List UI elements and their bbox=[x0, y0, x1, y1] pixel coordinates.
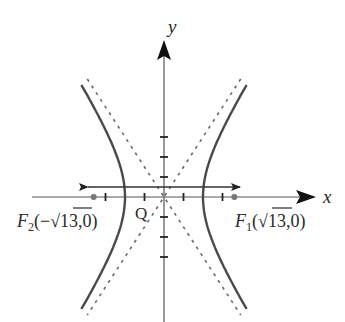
focus-f1-point bbox=[231, 194, 237, 200]
x-axis-label: x bbox=[322, 186, 332, 207]
focus-f2-point bbox=[91, 194, 97, 200]
hyperbola-diagram: x y Q F2(−√13,0) F1(√13,0) bbox=[0, 0, 345, 322]
sqrt-icon: √ bbox=[258, 211, 268, 231]
focus-f2-label: F2(−√13,0) bbox=[16, 208, 98, 234]
sqrt-icon: √ bbox=[50, 211, 60, 231]
f2-coord-open: (− bbox=[34, 211, 50, 232]
f2-coord-close: ,0) bbox=[78, 211, 98, 232]
origin-label: Q bbox=[135, 204, 147, 223]
f1-sqrt-value: 13 bbox=[268, 211, 286, 231]
f1-coord-close: ,0) bbox=[286, 211, 306, 232]
f2-sqrt-value: 13 bbox=[60, 211, 78, 231]
svg-text:F1(√13,0): F1(√13,0) bbox=[234, 211, 305, 234]
svg-text:F2(−√13,0): F2(−√13,0) bbox=[16, 211, 98, 234]
y-axis-label: y bbox=[166, 16, 177, 37]
focus-f1-label: F1(√13,0) bbox=[234, 208, 305, 234]
